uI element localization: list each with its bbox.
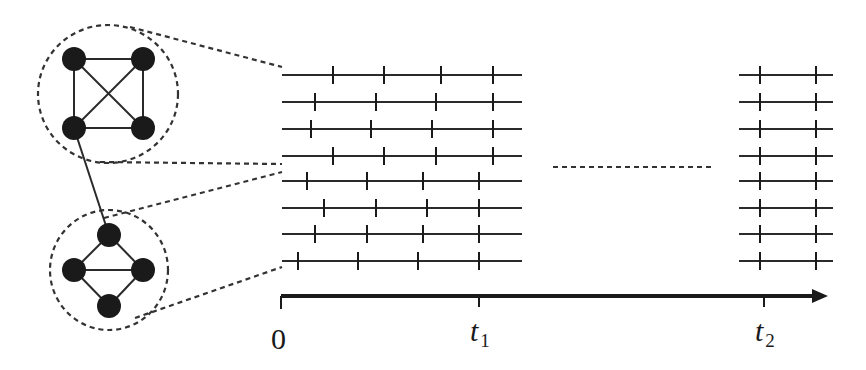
networks: [38, 25, 178, 330]
zoom-connectors: [100, 27, 282, 318]
spike-train-segment2: [739, 66, 833, 270]
t1-subscript: 1: [480, 330, 490, 351]
t1-symbol: t: [470, 314, 478, 347]
neuron-node: [62, 47, 86, 71]
axis-label-t2: t2: [755, 314, 775, 352]
arrowhead-icon: [812, 289, 828, 303]
cluster-complete: [38, 25, 178, 163]
spike-train-segment1: [282, 66, 522, 270]
t2-subscript: 2: [765, 330, 775, 351]
dashed-connector: [100, 162, 282, 164]
inter-cluster-edge: [74, 128, 109, 235]
neuron-node: [62, 258, 86, 282]
neuron-node: [97, 294, 121, 318]
neuron-node: [131, 258, 155, 282]
dashed-connector: [135, 267, 282, 318]
time-axis: [281, 289, 828, 309]
neuron-node: [131, 47, 155, 71]
neuron-node: [97, 223, 121, 247]
axis-label-t1: t1: [470, 314, 490, 352]
neuron-node: [62, 116, 86, 140]
spike-trains: [282, 66, 833, 270]
axis-label-origin: 0: [271, 322, 286, 356]
t2-symbol: t: [755, 314, 763, 347]
network-spike-diagram: [0, 0, 866, 370]
neuron-node: [131, 116, 155, 140]
dashed-connector: [104, 172, 282, 218]
